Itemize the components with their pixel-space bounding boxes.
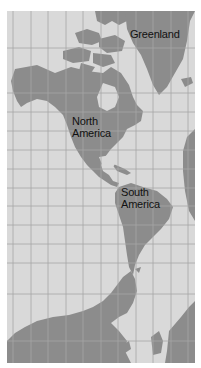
label-south-america: South America [121, 186, 160, 210]
antarctica-land [7, 271, 137, 363]
label-greenland: Greenland [130, 28, 180, 40]
world-map[interactable]: Greenland North America South America [7, 11, 195, 363]
map-canvas [7, 11, 195, 363]
label-north-america: North America [72, 115, 111, 139]
